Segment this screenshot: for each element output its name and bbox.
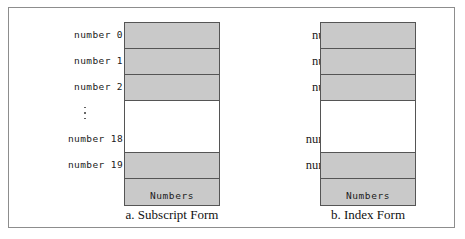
array-name-label-index: Numbers [320,190,416,201]
row-label-2: number 2 [74,74,123,100]
array-name-label-subscript: Numbers [124,190,220,201]
array-cell-0 [321,23,415,49]
row-label-18: number 18 [68,126,123,152]
row-label-19: number 19 [68,152,123,178]
array-box-subscript [124,22,220,206]
array-cell-0 [125,23,219,49]
array-cell-1 [321,49,415,75]
label-column-subscript: number 0 number 1 number 2 number 18 num… [11,22,123,182]
array-cell-18 [321,153,415,179]
vertical-ellipsis-icon [81,100,89,126]
array-cell-1 [125,49,219,75]
array-cell-18 [125,153,219,179]
panel-index-form: number [0] number [1] number [2] number … [234,8,456,227]
row-label-0: number 0 [74,22,123,48]
array-cell-gap [321,101,415,153]
row-label-1: number 1 [74,48,123,74]
array-cell-2 [125,75,219,101]
figure-frame: number 0 number 1 number 2 number 18 num… [8,7,455,228]
panel-caption-index: b. Index Form [268,207,465,223]
array-cell-2 [321,75,415,101]
array-cell-gap [125,101,219,153]
panel-subscript-form: number 0 number 1 number 2 number 18 num… [9,8,234,227]
array-box-index [320,22,416,206]
